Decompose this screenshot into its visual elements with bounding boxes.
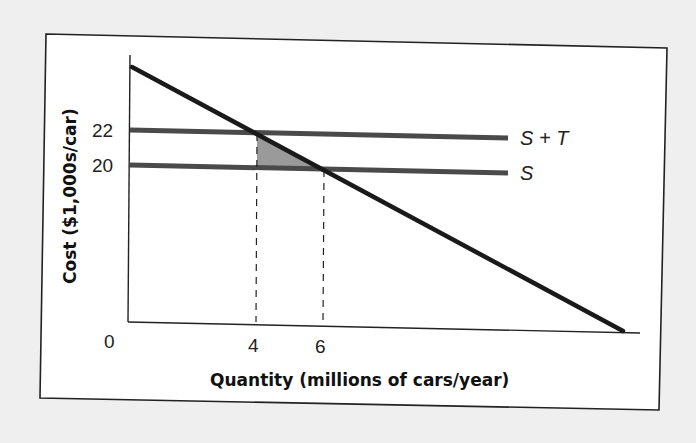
y-tick-20: 20 <box>92 155 113 176</box>
chart-figure: 22 20 0 4 6 S + T S Quantity (millions o… <box>0 0 696 443</box>
x-axis-title: Quantity (millions of cars/year) <box>210 370 509 390</box>
y-axis-title: Cost ($1,000s/car) <box>60 108 80 284</box>
chart-panel <box>40 34 667 410</box>
s-label: S <box>520 162 534 184</box>
y-tick-22: 22 <box>92 120 113 141</box>
origin-label: 0 <box>104 331 115 352</box>
x-tick-6: 6 <box>315 336 326 357</box>
s-plus-t-label: S + T <box>520 127 570 149</box>
x-tick-4: 4 <box>248 335 259 356</box>
